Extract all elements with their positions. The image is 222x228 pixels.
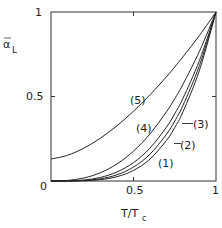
x-tick-label-0.5: 0.5 xyxy=(126,184,144,197)
y-tick-label-0.5: 0.5 xyxy=(26,90,44,103)
x-axis-label: T/T c xyxy=(120,207,146,223)
y-axis-symbol: α xyxy=(3,38,10,51)
curve-label-5: (5) xyxy=(130,94,146,107)
y-axis-subscript: L xyxy=(12,45,17,55)
line-chart: 0 0.5 1 0.5 1 α L T/T c (5) (4) (3) (2) … xyxy=(0,0,222,228)
curve-label-1: (1) xyxy=(158,157,174,170)
y-axis-label: α L xyxy=(3,38,17,55)
x-tick-label-0: 0 xyxy=(40,180,47,193)
curve-label-4: (4) xyxy=(136,122,152,135)
x-axis-symbol: T/T xyxy=(120,207,138,220)
curve-label-3: (3) xyxy=(193,118,209,131)
y-tick-label-1: 1 xyxy=(35,6,42,19)
x-axis-subscript: c xyxy=(142,214,146,223)
curve-label-2: (2) xyxy=(180,139,196,152)
x-tick-label-1: 1 xyxy=(212,184,219,197)
